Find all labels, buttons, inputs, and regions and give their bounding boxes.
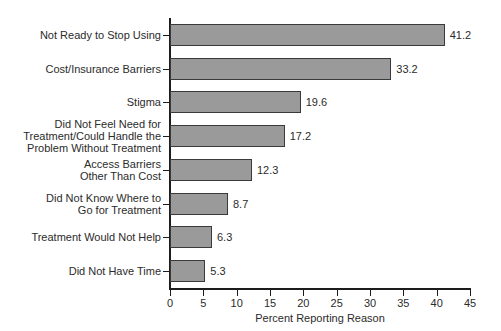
x-axis-tick-label: 15 xyxy=(264,297,276,309)
x-axis-tick-label: 0 xyxy=(167,297,173,309)
category-label: Treatment Would Not Help xyxy=(10,231,170,243)
bar xyxy=(170,58,391,80)
x-axis-tick-label: 40 xyxy=(431,297,443,309)
category-label-line: Did Not Have Time xyxy=(10,265,161,277)
bar-row: 6.3 xyxy=(170,226,470,248)
x-axis-tick xyxy=(403,290,404,296)
category-label: Access BarriersOther Than Cost xyxy=(10,158,170,182)
x-axis-title: Percent Reporting Reason xyxy=(170,312,470,324)
category-label-line: Access Barriers xyxy=(10,158,161,170)
category-label: Did Not Know Where toGo for Treatment xyxy=(10,192,170,216)
y-axis-tick xyxy=(163,102,170,103)
category-label: Did Not Feel Need forTreatment/Could Han… xyxy=(10,118,170,154)
x-axis-tick xyxy=(170,290,171,296)
bar-row: 41.2 xyxy=(170,24,470,46)
bar-row: 17.2 xyxy=(170,125,470,147)
bar xyxy=(170,260,205,282)
x-axis-tick-label: 5 xyxy=(200,297,206,309)
category-label-line: Treatment Would Not Help xyxy=(10,231,161,243)
bar-value-label: 12.3 xyxy=(252,164,278,176)
bar-value-label: 33.2 xyxy=(391,63,417,75)
x-axis-tick xyxy=(303,290,304,296)
y-axis-tick xyxy=(163,237,170,238)
bar-row: 12.3 xyxy=(170,159,470,181)
bar-value-label: 6.3 xyxy=(212,231,232,243)
x-axis-tick xyxy=(203,290,204,296)
category-label-line: Other Than Cost xyxy=(10,170,161,182)
bar-row: 19.6 xyxy=(170,91,470,113)
category-label-line: Treatment/Could Handle the xyxy=(10,130,161,142)
bar-value-label: 17.2 xyxy=(285,130,311,142)
x-axis-tick-label: 25 xyxy=(331,297,343,309)
category-label-line: Did Not Feel Need for xyxy=(10,118,161,130)
x-axis-tick xyxy=(470,290,471,296)
category-label: Did Not Have Time xyxy=(10,265,170,277)
bar-value-label: 8.7 xyxy=(228,198,248,210)
bar-value-label: 5.3 xyxy=(205,265,225,277)
y-axis-tick xyxy=(163,271,170,272)
bar-row: 33.2 xyxy=(170,58,470,80)
bar xyxy=(170,91,301,113)
x-axis-tick xyxy=(270,290,271,296)
bar xyxy=(170,159,252,181)
category-label-line: Not Ready to Stop Using xyxy=(10,29,161,41)
x-axis-tick-label: 10 xyxy=(231,297,243,309)
category-axis-labels: Not Ready to Stop UsingCost/Insurance Ba… xyxy=(0,18,170,288)
bar-row: 8.7 xyxy=(170,193,470,215)
bar xyxy=(170,24,445,46)
x-axis-tick xyxy=(437,290,438,296)
category-label-line: Problem Without Treatment xyxy=(10,142,161,154)
category-label-line: Stigma xyxy=(10,96,161,108)
x-axis-line xyxy=(169,288,471,290)
category-label: Cost/Insurance Barriers xyxy=(10,63,170,75)
x-axis-tick xyxy=(237,290,238,296)
y-axis-tick xyxy=(163,136,170,137)
y-axis-tick xyxy=(163,35,170,36)
category-label: Stigma xyxy=(10,96,170,108)
bar-value-label: 41.2 xyxy=(445,29,471,41)
bar-row: 5.3 xyxy=(170,260,470,282)
x-axis-tick-label: 35 xyxy=(397,297,409,309)
x-axis-tick-label: 20 xyxy=(297,297,309,309)
category-label-line: Go for Treatment xyxy=(10,204,161,216)
bar-chart: Not Ready to Stop UsingCost/Insurance Ba… xyxy=(0,0,501,331)
y-axis-tick xyxy=(163,69,170,70)
y-axis-tick xyxy=(163,170,170,171)
category-label-line: Cost/Insurance Barriers xyxy=(10,63,161,75)
y-axis-tick xyxy=(163,204,170,205)
bar xyxy=(170,226,212,248)
category-label: Not Ready to Stop Using xyxy=(10,29,170,41)
bar-value-label: 19.6 xyxy=(301,96,327,108)
x-axis-tick xyxy=(337,290,338,296)
x-axis-tick-label: 30 xyxy=(364,297,376,309)
x-axis-tick-label: 45 xyxy=(464,297,476,309)
plot-area: 41.233.219.617.212.38.76.35.3 xyxy=(170,18,470,288)
bar xyxy=(170,125,285,147)
bar xyxy=(170,193,228,215)
x-axis-tick xyxy=(370,290,371,296)
category-label-line: Did Not Know Where to xyxy=(10,192,161,204)
